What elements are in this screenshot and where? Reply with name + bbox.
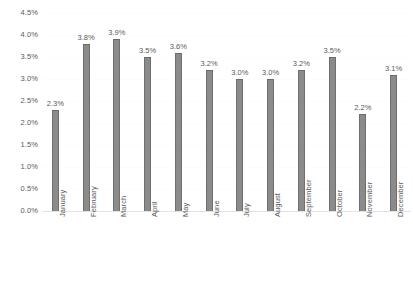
y-axis-tick-label: 4.0% (0, 31, 38, 39)
bar (236, 79, 243, 211)
bar-value-label: 3.5% (139, 47, 157, 55)
bar-column: 3.8% (83, 13, 90, 211)
bar-value-label: 3.5% (323, 47, 341, 55)
bar (113, 39, 120, 211)
bar (175, 53, 182, 211)
bar (267, 79, 274, 211)
x-axis-tick-text: November (366, 182, 374, 217)
bar-value-label: 3.2% (200, 60, 218, 68)
bar-value-label: 3.0% (262, 69, 280, 77)
bar-value-label: 3.9% (108, 29, 126, 37)
x-axis-tick-text: June (213, 200, 221, 217)
bar-column: 2.3% (52, 13, 59, 211)
y-axis-tick-label: 2.0% (0, 119, 38, 127)
gridline (42, 79, 411, 80)
y-axis-tick-label: 4.5% (0, 9, 38, 17)
bar-column: 3.2% (206, 13, 213, 211)
x-axis-tick-text: September (305, 179, 313, 217)
bar-value-label: 3.6% (170, 43, 188, 51)
gridline (42, 13, 411, 14)
y-axis: 0.0%0.5%1.0%1.5%2.0%2.5%3.0%3.5%4.0%4.5% (0, 13, 38, 211)
y-axis-tick-label: 0.0% (0, 207, 38, 215)
bar-column: 3.0% (236, 13, 243, 211)
bar-column: 3.9% (113, 13, 120, 211)
bar (144, 57, 151, 211)
y-axis-tick-label: 2.5% (0, 97, 38, 105)
bar-chart: 0.0%0.5%1.0%1.5%2.0%2.5%3.0%3.5%4.0%4.5%… (0, 0, 413, 282)
bar-column: 3.5% (329, 13, 336, 211)
bar-value-label: 3.1% (385, 65, 403, 73)
bar-value-label: 3.0% (231, 69, 249, 77)
bar-column: 3.5% (144, 13, 151, 211)
y-axis-tick-label: 3.5% (0, 53, 38, 61)
x-axis-tick-text: July (243, 203, 251, 217)
bar (329, 57, 336, 211)
gridline (42, 35, 411, 36)
y-axis-tick-label: 1.5% (0, 141, 38, 149)
gridline (42, 167, 411, 168)
bar-value-label: 2.2% (354, 104, 372, 112)
y-axis-tick-label: 3.0% (0, 75, 38, 83)
bar-value-label: 3.2% (293, 60, 311, 68)
x-axis-tick-text: August (274, 193, 282, 217)
x-axis-tick-text: March (120, 196, 128, 217)
gridline (42, 57, 411, 58)
x-axis-tick-text: April (151, 201, 159, 217)
x-axis-tick-text: February (90, 186, 98, 217)
x-axis-tick-text: December (397, 182, 405, 217)
bar (206, 70, 213, 211)
gridline (42, 123, 411, 124)
y-axis-tick-label: 0.5% (0, 185, 38, 193)
x-axis-tick-text: January (59, 190, 67, 217)
plot-area: 2.3%3.8%3.9%3.5%3.6%3.2%3.0%3.0%3.2%3.5%… (42, 13, 411, 211)
y-axis-tick-label: 1.0% (0, 163, 38, 171)
gridline (42, 101, 411, 102)
x-axis-tick-text: May (182, 203, 190, 217)
x-axis: JanuaryFebruaryMarchAprilMayJuneJulyAugu… (42, 211, 411, 282)
bar-value-label: 3.8% (77, 34, 95, 42)
x-axis-tick-text: October (336, 190, 344, 217)
bar-column: 3.6% (175, 13, 182, 211)
bar-value-label: 2.3% (47, 100, 65, 108)
bar-column: 3.0% (267, 13, 274, 211)
gridline (42, 145, 411, 146)
